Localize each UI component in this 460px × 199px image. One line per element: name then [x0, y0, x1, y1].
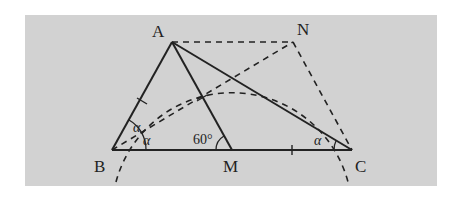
angle-label-C: α [314, 133, 322, 148]
point-label-M: M [223, 157, 238, 176]
geometry-diagram: A N B M C α α 60° α [0, 0, 460, 199]
segment-NC [293, 42, 352, 150]
point-label-A: A [152, 22, 165, 41]
angle-label-B-lower: α [143, 133, 151, 148]
angle-arc-M [216, 136, 224, 150]
angle-arc-C [334, 141, 336, 150]
angle-label-M: 60° [193, 132, 213, 147]
point-label-C: C [355, 157, 366, 176]
point-label-B: B [94, 157, 105, 176]
point-label-N: N [297, 20, 309, 39]
angle-label-B-upper: α [133, 120, 141, 135]
